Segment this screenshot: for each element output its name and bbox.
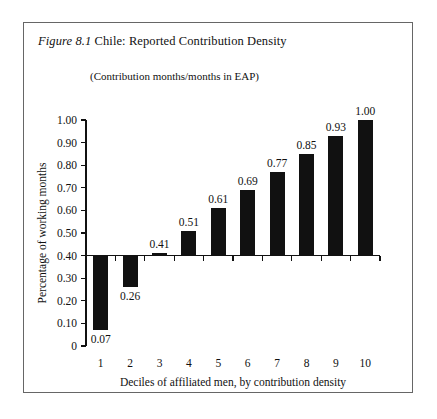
y-axis-tick-label: 0.60 <box>57 204 77 216</box>
y-axis-tick-label: 0 <box>71 340 77 352</box>
y-axis-tick-label: 0.80 <box>57 159 77 171</box>
y-axis-tick-label: 1.00 <box>57 114 77 126</box>
bar <box>240 190 255 256</box>
bar-value-label: 0.26 <box>120 290 140 302</box>
chart-subtitle: (Contribution months/months in EAP) <box>90 70 259 83</box>
y-axis-tick-label: 0.30 <box>57 272 77 284</box>
x-axis-category-label: 7 <box>274 357 280 369</box>
bar <box>358 120 373 256</box>
bar <box>299 154 314 256</box>
x-axis-category-label: 4 <box>186 357 192 369</box>
bar <box>152 253 167 255</box>
x-axis-category-label: 3 <box>157 357 163 369</box>
x-axis-category-label: 6 <box>245 357 251 369</box>
x-axis-category-label: 10 <box>360 357 372 369</box>
figure-frame: Figure 8.1 Chile: Reported Contribution … <box>23 22 413 393</box>
x-axis-category-label: 2 <box>127 357 133 369</box>
y-axis-tick-label: 0.40 <box>57 250 77 262</box>
bar <box>93 256 108 331</box>
bar-value-label: 0.41 <box>149 238 169 250</box>
x-axis-title: Deciles of affiliated men, by contributi… <box>120 376 346 389</box>
y-axis-tick-label: 0.50 <box>57 227 77 239</box>
x-axis-category-label: 5 <box>215 357 221 369</box>
bar-value-label: 0.51 <box>179 216 199 228</box>
x-axis-category-label: 8 <box>304 357 310 369</box>
bar <box>211 208 226 255</box>
bar-value-label: 0.77 <box>267 157 287 169</box>
y-axis-title: Percentage of working months <box>36 162 49 303</box>
bar <box>181 231 196 256</box>
y-axis-tick-label: 0.10 <box>57 317 77 329</box>
y-axis-tick-label: 0.90 <box>57 137 77 149</box>
bar <box>328 136 343 256</box>
x-axis-category-label: 9 <box>333 357 339 369</box>
bar <box>123 256 138 288</box>
bar-value-label: 0.69 <box>238 175 258 187</box>
y-axis-tick-label: 0.20 <box>57 295 77 307</box>
bar-value-label: 1.00 <box>355 105 375 117</box>
y-axis-tick-label: 0.70 <box>57 182 77 194</box>
bar-value-label: 0.07 <box>91 333 111 345</box>
bar-value-label: 0.85 <box>296 139 316 151</box>
contribution-density-bar-chart: (Contribution months/months in EAP)00.10… <box>24 23 414 394</box>
bar <box>270 172 285 256</box>
x-axis-category-label: 1 <box>98 357 104 369</box>
bar-value-label: 0.61 <box>208 193 228 205</box>
bar-value-label: 0.93 <box>326 121 346 133</box>
